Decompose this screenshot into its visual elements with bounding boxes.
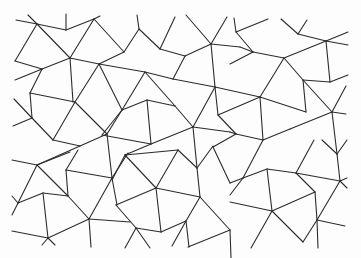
- tiling-edge: [160, 49, 185, 56]
- tiling-edge: [197, 146, 213, 168]
- tiling-edge: [272, 211, 303, 242]
- tiling-edge: [211, 17, 227, 44]
- tiling-edge: [332, 86, 346, 112]
- tiling-edge: [125, 155, 156, 188]
- tiling-edge: [267, 169, 272, 211]
- tiling-edge: [251, 211, 272, 248]
- tiling-edge: [32, 118, 53, 140]
- tiling-edge: [197, 168, 200, 197]
- tiling-edge: [37, 24, 70, 58]
- tiling-edge: [193, 127, 197, 168]
- tiling-edge: [136, 228, 161, 232]
- tiling-edge: [303, 80, 306, 112]
- tiling-edge: [260, 97, 306, 112]
- tiling-edge: [99, 64, 122, 110]
- tiling-edge: [284, 41, 326, 58]
- tiling-edge: [230, 230, 231, 258]
- tiling-edge: [296, 140, 314, 173]
- tiling-edge: [37, 152, 70, 165]
- tiling-edge: [236, 134, 263, 140]
- tiling-edge: [326, 41, 330, 82]
- tiling-edge: [66, 170, 112, 178]
- tiling-edge: [211, 44, 240, 47]
- tiling-edge: [284, 58, 303, 80]
- tiling-edge: [66, 170, 68, 196]
- tiling-edge: [89, 219, 91, 247]
- tiling-edge: [193, 87, 215, 127]
- tiling-edge: [156, 188, 200, 197]
- tiling-edge: [112, 155, 125, 180]
- tiling-edge: [30, 93, 32, 118]
- tiling-edge: [281, 19, 298, 34]
- tiling-edge: [332, 112, 346, 114]
- tiling-edge: [156, 188, 161, 232]
- tiling-edge: [317, 220, 345, 226]
- tiling-edge: [213, 134, 236, 147]
- tiling-edge: [116, 205, 136, 228]
- tiling-edge: [215, 87, 260, 97]
- tiling-edge: [125, 228, 136, 248]
- tiling-edge: [298, 20, 307, 34]
- tiling-edge: [48, 219, 89, 238]
- tiling-edge: [12, 231, 48, 238]
- tiling-edge: [99, 52, 124, 64]
- tiling-edge: [186, 221, 189, 247]
- tiling-edge: [122, 100, 147, 110]
- tiling-edge: [151, 127, 193, 144]
- tiling-edge: [147, 100, 151, 144]
- tiling-edge: [136, 228, 150, 248]
- tiling-edge: [322, 140, 337, 154]
- tiling-edge: [260, 58, 284, 97]
- tiling-edge: [18, 165, 37, 203]
- tiling-edge: [267, 169, 296, 173]
- tiling-edge: [42, 238, 48, 245]
- tiling-edge: [43, 193, 68, 196]
- tiling-edge: [75, 64, 99, 102]
- tiling-edge: [112, 178, 117, 205]
- tiling-edge: [124, 29, 139, 52]
- tiling-edge: [263, 129, 290, 140]
- tiling-edge: [303, 220, 317, 242]
- tiling-edge: [234, 18, 236, 32]
- tiling-edge: [173, 79, 215, 87]
- tiling-edge: [200, 197, 230, 230]
- tiling-edge: [156, 150, 178, 188]
- tiling-edge: [230, 52, 253, 64]
- tiling-edge: [125, 150, 178, 155]
- tiling-edge: [175, 106, 193, 127]
- tiling-edge: [68, 196, 89, 219]
- tiling-drawing: [0, 0, 361, 258]
- tiling-edge: [230, 202, 272, 211]
- tiling-edge: [340, 178, 347, 181]
- tiling-edge: [186, 197, 200, 221]
- tiling-edge: [253, 52, 284, 58]
- tiling-edge: [75, 102, 107, 134]
- tiling-edge: [260, 97, 263, 140]
- tiling-edge: [15, 24, 37, 61]
- tiling-edge: [332, 112, 337, 154]
- tiling-edge: [12, 160, 37, 165]
- tiling-edge: [30, 93, 75, 102]
- tiling-edge: [48, 238, 55, 245]
- tiling-edge: [53, 102, 75, 140]
- tiling-edge: [70, 58, 99, 64]
- tiling-edge: [290, 112, 332, 129]
- tiling-edge: [218, 97, 260, 115]
- tiling-edge: [173, 56, 185, 79]
- tiling-edge: [340, 181, 347, 188]
- tiling-edge: [145, 72, 173, 79]
- tiling-edge: [185, 44, 211, 56]
- tiling-edge: [243, 140, 263, 178]
- tiling-edge: [298, 34, 326, 41]
- tiling-edge: [215, 87, 218, 115]
- tiling-edge: [116, 188, 156, 205]
- tiling-edge: [236, 19, 268, 32]
- tiling-edge: [139, 29, 160, 49]
- tiling-edge: [70, 19, 94, 58]
- tiling-edge: [80, 134, 107, 146]
- tiling-edge: [13, 118, 32, 126]
- tiling-edge: [317, 181, 340, 220]
- tiling-edge: [303, 80, 330, 82]
- tiling-edge: [326, 32, 348, 41]
- tiling-edge: [102, 110, 122, 135]
